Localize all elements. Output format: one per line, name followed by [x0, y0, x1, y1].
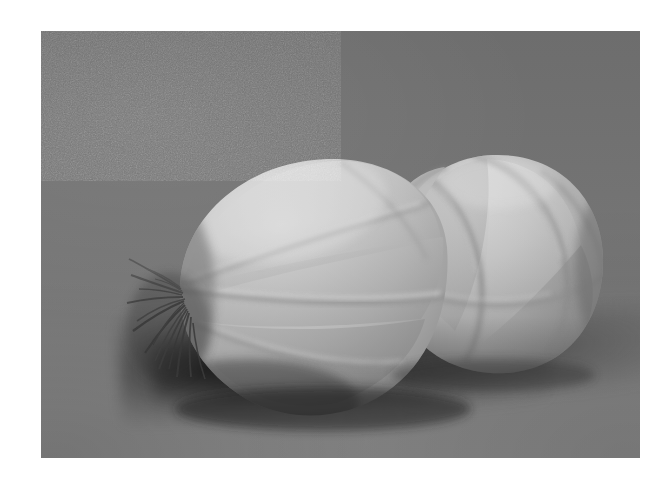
photograph: [41, 31, 640, 458]
page-canvas: [0, 0, 666, 487]
contact-shadow: [175, 387, 471, 431]
contact-shadow-right: [391, 359, 595, 391]
root-base-shadow: [127, 273, 211, 381]
onion-subject: [41, 31, 640, 458]
